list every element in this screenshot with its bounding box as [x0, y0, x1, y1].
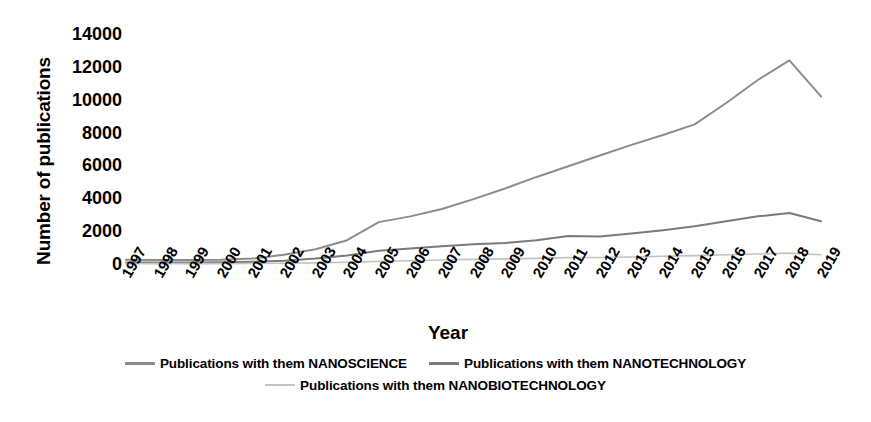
- x-axis-title: Year: [398, 322, 498, 344]
- x-tick-label: 2004: [339, 244, 370, 280]
- x-tick-label: 2005: [371, 244, 402, 280]
- x-tick-label: 2003: [308, 244, 339, 280]
- legend-label-nanotechnology: Publications with them NANOTECHNOLOGY: [464, 356, 746, 371]
- x-tick-label: 2019: [813, 244, 844, 280]
- x-tick-label: 2016: [718, 244, 749, 280]
- x-tick-label: 2007: [434, 244, 465, 280]
- legend-item-nanobiotechnology: Publications with them NANOBIOTECHNOLOGY: [265, 378, 606, 393]
- x-tick-label: 2012: [592, 244, 623, 280]
- x-tick-label: 2014: [655, 244, 686, 280]
- x-tick-label: 2006: [402, 244, 433, 280]
- x-tick-label: 2018: [781, 244, 812, 280]
- legend-swatch-nanotechnology: [429, 362, 459, 365]
- x-tick-label: 1997: [118, 244, 149, 280]
- x-tick-label: 2015: [687, 244, 718, 280]
- legend-label-nanobiotechnology: Publications with them NANOBIOTECHNOLOGY: [300, 378, 606, 393]
- legend-item-nanoscience: Publications with them NANOSCIENCE: [125, 356, 407, 371]
- chart-legend: Publications with them NANOSCIENCE Publi…: [0, 352, 871, 396]
- legend-swatch-nanobiotechnology: [265, 384, 295, 386]
- legend-row-1: Publications with them NANOSCIENCE Publi…: [0, 352, 871, 374]
- x-tick-label: 2000: [213, 244, 244, 280]
- x-tick-label: 2009: [497, 244, 528, 280]
- x-tick-label: 2001: [244, 244, 275, 280]
- x-tick-label: 2011: [560, 245, 590, 281]
- x-tick-label: 2008: [466, 244, 497, 280]
- x-tick-label: 2002: [276, 244, 307, 280]
- x-tick-label: 2017: [750, 244, 781, 280]
- x-tick-label: 2010: [529, 244, 560, 280]
- legend-swatch-nanoscience: [125, 362, 155, 365]
- legend-item-nanotechnology: Publications with them NANOTECHNOLOGY: [429, 356, 746, 371]
- legend-label-nanoscience: Publications with them NANOSCIENCE: [160, 356, 407, 371]
- x-tick-label: 2013: [623, 244, 654, 280]
- x-tick-label: 1999: [181, 244, 212, 280]
- x-tick-label: 1998: [150, 244, 181, 280]
- chart-figure: Number of publications 14000120001000080…: [0, 0, 871, 422]
- legend-row-2: Publications with them NANOBIOTECHNOLOGY: [0, 374, 871, 396]
